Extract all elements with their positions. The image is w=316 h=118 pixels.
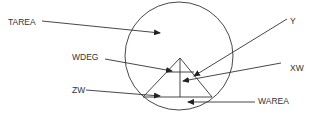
label-warea: WAREA (258, 96, 289, 106)
y-leader-arrow (194, 19, 287, 76)
wdeg-leader-arrow (105, 59, 172, 71)
label-zw: ZW (72, 85, 85, 95)
label-y: Y (290, 16, 296, 26)
label-tarea: TAREA (8, 17, 36, 27)
weld-area-diagram: TAREA WDEG ZW Y XW WAREA (0, 0, 316, 118)
tarea-leader-arrow (42, 21, 160, 33)
outer-circle (125, 2, 233, 110)
label-wdeg: WDEG (72, 52, 98, 62)
label-xw: XW (290, 63, 304, 73)
